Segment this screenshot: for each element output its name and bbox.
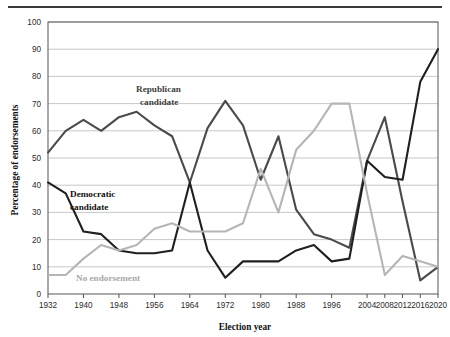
line-chart-svg: 0102030405060708090100 19321940194819561… [0, 0, 450, 337]
y-tick-label: 30 [32, 208, 42, 217]
x-tick-label: 1948 [110, 301, 129, 310]
no-endorsement-series-label: No endorsement [76, 273, 141, 283]
x-axis-title: Election year [219, 322, 271, 332]
series-lines-group [48, 49, 438, 280]
y-tick-label: 80 [32, 72, 42, 81]
x-tick-label: 1956 [145, 301, 164, 310]
y-tick-label: 40 [32, 181, 42, 190]
series-line-democratic-candidate [48, 49, 438, 277]
x-axis-tick-marks [48, 294, 438, 298]
y-tick-label: 90 [32, 45, 42, 54]
y-tick-label: 50 [32, 154, 42, 163]
y-tick-label: 100 [27, 18, 41, 27]
y-tick-label: 60 [32, 127, 42, 136]
democratic-series-label-line1: Democratic [70, 189, 115, 199]
y-tick-label: 10 [32, 263, 42, 272]
x-tick-label: 1940 [74, 301, 93, 310]
y-axis-tick-labels: 0102030405060708090100 [27, 18, 41, 299]
x-tick-label: 1932 [39, 301, 58, 310]
x-tick-label: 2012 [393, 301, 412, 310]
democratic-series-label-line2: candidate [70, 202, 108, 212]
x-tick-label: 2008 [376, 301, 395, 310]
x-tick-label: 1980 [252, 301, 271, 310]
x-axis-tick-labels: 1932194019481956196419721980198819962004… [39, 301, 448, 310]
y-tick-label: 70 [32, 100, 42, 109]
x-tick-label: 1972 [216, 301, 235, 310]
x-tick-label: 1988 [287, 301, 306, 310]
x-tick-label: 1996 [323, 301, 342, 310]
republican-series-label-line1: Republican [136, 84, 181, 94]
y-tick-label: 0 [36, 290, 41, 299]
chart-figure: 0102030405060708090100 19321940194819561… [0, 0, 450, 337]
x-tick-label: 2016 [411, 301, 430, 310]
y-tick-label: 20 [32, 236, 42, 245]
republican-series-label-line2: candidate [140, 97, 178, 107]
gridlines-group [48, 22, 438, 267]
x-tick-label: 2004 [358, 301, 377, 310]
y-axis-title: Percentage of endorsements [10, 104, 20, 215]
x-tick-label: 2020 [429, 301, 448, 310]
x-tick-label: 1964 [181, 301, 200, 310]
